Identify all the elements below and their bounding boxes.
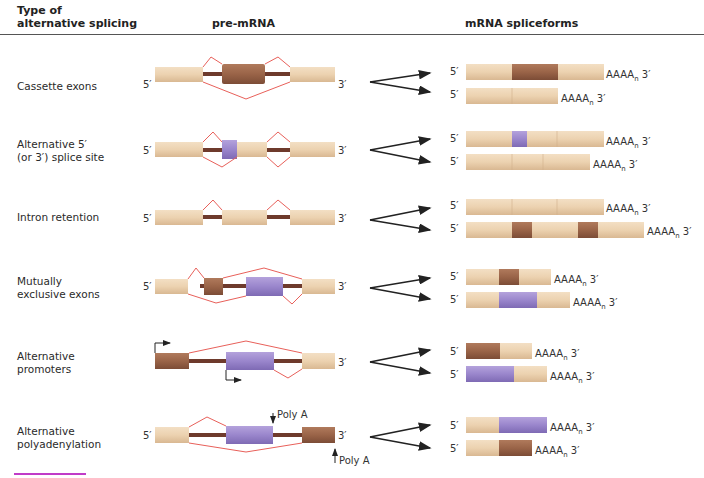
svg-text:5′: 5′ (143, 145, 152, 156)
svg-text:5′: 5′ (450, 294, 459, 305)
svg-text:5′: 5′ (450, 200, 459, 211)
svg-text:5′: 5′ (143, 213, 152, 224)
svg-text:5′: 5′ (450, 133, 459, 144)
branch-arrows (370, 139, 430, 162)
pre-mrna-mutually-exclusive: 5′ 3′ (143, 268, 347, 304)
spliceform-long-exon: 5′ AAAAn 3′ (450, 131, 651, 150)
pre-mrna-alt-splice-site: 5′ 3′ (143, 132, 347, 167)
svg-text:AAAAn 3′: AAAAn 3′ (573, 297, 618, 311)
svg-text:AAAAn 3′: AAAAn 3′ (593, 159, 638, 173)
branch-arrows (370, 278, 430, 299)
spliceform-cassette-skipped: 5′ AAAAn 3′ (450, 88, 606, 107)
svg-text:AAAAn 3′: AAAAn 3′ (535, 348, 580, 362)
promoter-arrow-2 (226, 370, 241, 380)
svg-text:5′: 5′ (143, 430, 152, 441)
splicing-diagram: 5′ 3′ 5′ AAAAn 3′ 5′ AAAAn 3′ 5′ 3′ (0, 0, 704, 478)
svg-text:3′: 3′ (338, 145, 347, 156)
svg-text:5′: 5′ (450, 443, 459, 454)
svg-text:3′: 3′ (338, 281, 347, 292)
alt-splice-extension (222, 140, 237, 159)
svg-text:5′: 5′ (450, 89, 459, 100)
pre-mrna-intron-retention: 5′ 3′ (143, 200, 347, 225)
poly-a-site-2-label: Poly A (339, 455, 370, 466)
svg-text:5′: 5′ (450, 369, 459, 380)
spliceform-promoter-1: 5′ AAAAn 3′ (450, 343, 580, 362)
spliceform-purple-exon: 5′ AAAAn 3′ (450, 292, 618, 311)
svg-text:5′: 5′ (450, 66, 459, 77)
five-prime-label: 5′ (143, 79, 152, 90)
spliceform-proximal-polya: 5′ AAAAn 3′ (450, 417, 595, 436)
svg-text:AAAAn 3′: AAAAn 3′ (550, 422, 595, 436)
svg-text:5′: 5′ (450, 420, 459, 431)
svg-text:AAAAn 3′: AAAAn 3′ (606, 69, 651, 83)
pre-mrna-alt-polyadenylation: 5′ 3′ Poly A Poly A (143, 409, 370, 466)
svg-text:5′: 5′ (450, 271, 459, 282)
accent-bar (14, 473, 86, 475)
spliceform-spliced: 5′ AAAAn 3′ (450, 199, 651, 217)
promoter-arrow-1 (155, 343, 170, 353)
svg-text:AAAAn 3′: AAAAn 3′ (554, 274, 599, 288)
svg-text:AAAAn 3′: AAAAn 3′ (606, 136, 651, 150)
branch-arrows (370, 208, 430, 230)
spliceform-short-exon: 5′ AAAAn 3′ (450, 154, 638, 173)
spliceform-promoter-2: 5′ AAAAn 3′ (450, 366, 595, 385)
svg-text:3′: 3′ (338, 430, 347, 441)
branch-arrows (370, 350, 430, 373)
svg-text:AAAAn 3′: AAAAn 3′ (606, 203, 651, 217)
svg-text:AAAAn 3′: AAAAn 3′ (535, 445, 580, 459)
pre-mrna-alt-promoters: 3′ (155, 341, 347, 380)
exon-cassette (222, 64, 265, 84)
branch-arrows (370, 73, 430, 92)
spliceform-cassette-included: 5′ AAAAn 3′ (450, 64, 651, 83)
exon-constitutive (290, 67, 335, 82)
svg-text:3′: 3′ (338, 213, 347, 224)
svg-text:AAAAn 3′: AAAAn 3′ (550, 371, 595, 385)
branch-arrows (370, 425, 430, 448)
svg-text:5′: 5′ (143, 281, 152, 292)
three-prime-label: 3′ (338, 79, 347, 90)
svg-text:3′: 3′ (338, 357, 347, 368)
svg-text:5′: 5′ (450, 156, 459, 167)
exon-constitutive (155, 67, 203, 82)
svg-text:5′: 5′ (450, 223, 459, 234)
spliceform-intron-retained: 5′ AAAAn 3′ (450, 222, 692, 240)
spliceform-brown-exon: 5′ AAAAn 3′ (450, 269, 599, 288)
pre-mrna-cassette: 5′ 3′ (143, 57, 347, 99)
svg-text:5′: 5′ (450, 346, 459, 357)
svg-text:AAAAn 3′: AAAAn 3′ (561, 93, 606, 107)
svg-text:AAAAn 3′: AAAAn 3′ (647, 226, 692, 240)
poly-a-site-1-label: Poly A (277, 409, 308, 420)
spliceform-distal-polya: 5′ AAAAn 3′ (450, 440, 580, 459)
